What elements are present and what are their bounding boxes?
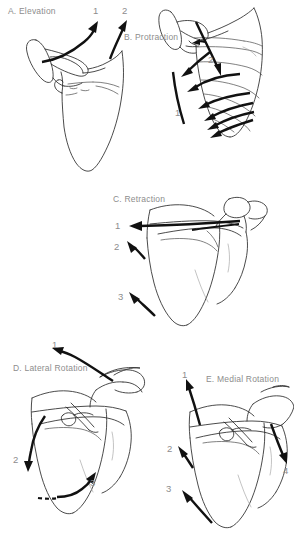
panel-d-number-2: 2 (13, 454, 18, 465)
scapula-outline-d (31, 367, 144, 513)
panel-b-number-2: 2 (208, 54, 213, 65)
panel-a-elevation: A. Elevation 1 2 (8, 5, 127, 171)
panel-b-number-1: 1 (175, 107, 180, 118)
arrow-e-3 (182, 490, 212, 523)
panel-e-number-2: 2 (167, 443, 172, 454)
arrow-b-2 (196, 22, 221, 76)
arrow-b-fan (187, 74, 254, 138)
panel-d-number-3: 3 (90, 477, 95, 488)
panel-c-retraction: C. Retraction 1 2 3 (113, 194, 267, 326)
panel-b-protraction: B. Protraction 1 2 (124, 8, 262, 138)
panel-e-number-3: 3 (166, 483, 171, 494)
panel-d-label: D. Lateral Rotation (13, 363, 88, 373)
arrow-c-2 (127, 241, 145, 259)
reference-dashes-d (38, 498, 58, 499)
scapula-outline-c (147, 197, 267, 325)
panel-a-number-2: 2 (122, 5, 127, 16)
panel-e-number-4: 4 (283, 465, 288, 476)
panel-d-lateral-rotation: D. Lateral Rotation 1 2 3 (13, 339, 145, 514)
arrow-b-upper-left (181, 52, 210, 77)
panel-d-number-1: 1 (52, 339, 57, 350)
panel-e-number-1: 1 (182, 369, 187, 380)
scapula-outline-e (189, 386, 294, 528)
panel-e-medial-rotation: E. Medial Rotation 1 2 3 4 (166, 369, 294, 528)
panel-c-number-2: 2 (114, 241, 119, 252)
arrow-c-3 (129, 292, 155, 316)
panel-c-number-3: 3 (118, 291, 123, 302)
panel-e-label: E. Medial Rotation (206, 374, 279, 384)
panel-a-label: A. Elevation (8, 6, 56, 16)
scapula-outline-a (26, 40, 123, 172)
arrow-e-4 (271, 424, 287, 464)
panel-c-label: C. Retraction (113, 194, 165, 204)
panel-b-label: B. Protraction (124, 32, 178, 42)
panel-a-number-1: 1 (93, 5, 98, 16)
arrow-e-1 (186, 379, 200, 425)
scapular-movements-figure: A. Elevation 1 2 (0, 0, 294, 554)
figure-canvas: A. Elevation 1 2 (0, 0, 294, 554)
panel-c-number-1: 1 (115, 220, 120, 231)
